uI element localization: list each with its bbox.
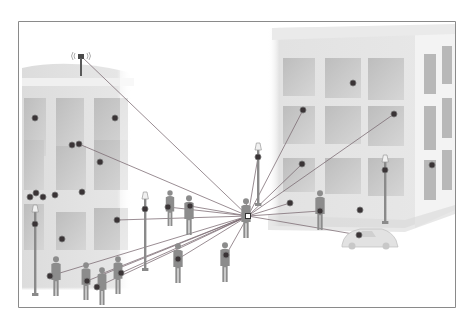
device-node [382,167,388,173]
device-node [52,192,58,198]
device-node [40,194,46,200]
person-head [243,198,249,204]
person-body [166,196,174,226]
right-building-window [368,58,404,100]
lamp-head [142,192,148,199]
central-hub-icon [246,214,251,219]
device-node [317,208,323,214]
person-head [186,195,192,201]
car-icon [342,229,398,250]
device-node [357,207,363,213]
left-building-window [56,146,86,190]
person-head [167,190,172,195]
lamp-base [32,293,38,296]
device-node [94,284,100,290]
device-node [32,221,38,227]
right-building-side-window [424,106,436,150]
device-node [175,256,181,262]
device-node [112,115,118,121]
person-head [115,256,121,262]
device-node [27,194,33,200]
connection-line [178,216,248,259]
device-node [165,204,171,210]
person-head [99,267,105,273]
right-building-window [283,58,315,96]
device-node [391,111,397,117]
person-head [317,190,323,196]
device-node [429,162,435,168]
network-diagram [0,0,475,327]
device-node [187,203,193,209]
right-building-window [325,106,361,144]
device-node [223,252,229,258]
lamp-base [382,221,388,224]
device-node [47,273,53,279]
person-head [222,242,228,248]
device-node [69,142,75,148]
car-wheel [383,243,390,250]
right-building-window [325,158,361,194]
street-lamp-icon [142,192,148,271]
right-building [268,24,455,232]
left-building-window [24,140,44,190]
person-head [83,262,89,268]
left-building-edge-fade [120,68,140,293]
device-node [114,217,120,223]
device-node [59,236,65,242]
device-node [299,161,305,167]
car-wheel [349,243,356,250]
street-lamp-icon [255,143,261,206]
device-node [287,200,293,206]
left-building-cornice [22,78,134,86]
left-building-window [56,212,86,250]
right-building-side-window [442,46,452,84]
device-node [142,206,148,212]
device-node [356,232,362,238]
lamp-head [32,205,38,212]
person-body [241,205,250,238]
right-building-window [368,106,404,146]
right-building-side-window [442,98,452,138]
device-node [84,278,90,284]
lamp-base [255,203,261,206]
device-node [79,189,85,195]
person-body [51,263,60,296]
person-body [173,250,182,283]
person-head [53,256,59,262]
person-icon [184,195,193,235]
right-building-window [283,106,315,144]
device-node [32,115,38,121]
device-node [300,107,306,113]
device-node [350,80,356,86]
left-building [22,64,140,293]
device-node [255,154,261,160]
person-icon [220,242,229,282]
device-node [33,190,39,196]
device-node [76,141,82,147]
left-building-window [56,98,84,148]
right-building-side-window [424,54,436,94]
person-head [175,243,181,249]
right-building-side-window [442,150,452,190]
device-node [97,159,103,165]
lamp-head [382,155,388,162]
lamp-base [142,268,148,271]
device-node [118,270,124,276]
right-building-window [325,58,361,98]
antenna-mast [80,58,82,76]
connection-line [168,207,248,216]
lamp-head [255,143,261,150]
